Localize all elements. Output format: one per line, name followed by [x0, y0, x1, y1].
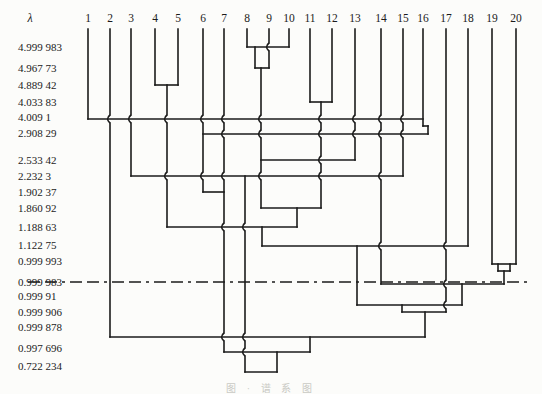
leaf-label-1: 1 [85, 12, 91, 24]
lambda-value-label-8: 1.902 37 [18, 186, 57, 198]
leaf-label-12: 12 [326, 12, 338, 24]
lambda-value-label-2: 4.889 42 [18, 79, 57, 91]
leaf-label-13: 13 [349, 12, 361, 24]
leaf-label-16: 16 [417, 12, 429, 24]
lambda-axis-symbol: λ [26, 11, 32, 25]
lambda-value-label-15: 0.999 906 [18, 306, 63, 318]
leaf-label-14: 14 [375, 12, 387, 24]
lambda-value-label-4: 4.009 1 [18, 111, 51, 123]
lambda-value-label-13: 0.999 983 [18, 276, 63, 288]
lambda-value-label-6: 2.533 42 [18, 154, 57, 166]
lambda-value-label-12: 0.999 993 [18, 255, 63, 267]
leaf-label-10: 10 [283, 12, 295, 24]
leaf-label-6: 6 [200, 12, 206, 24]
leaf-label-4: 4 [152, 12, 158, 24]
leaf-label-19: 19 [486, 12, 498, 24]
leaf-label-2: 2 [107, 12, 113, 24]
lambda-value-label-17: 0.997 696 [18, 342, 63, 354]
lambda-value-label-11: 1.122 75 [18, 239, 57, 251]
lambda-value-label-0: 4.999 983 [18, 41, 63, 53]
figure-caption: 图 · 谱 系 图 [0, 380, 542, 394]
leaf-label-20: 20 [510, 12, 522, 24]
lambda-value-label-1: 4.967 73 [18, 62, 57, 74]
leaf-label-8: 8 [244, 12, 250, 24]
leaf-label-18: 18 [462, 12, 474, 24]
leaf-label-11: 11 [304, 12, 315, 24]
leaf-label-5: 5 [175, 12, 181, 24]
lambda-value-label-9: 1.860 92 [18, 202, 57, 214]
lambda-value-label-3: 4.033 83 [18, 96, 57, 108]
leaf-label-15: 15 [397, 12, 409, 24]
leaf-label-17: 17 [440, 12, 452, 24]
lambda-value-label-14: 0.999 91 [18, 290, 57, 302]
leaf-label-9: 9 [266, 12, 272, 24]
dendrogram-figure: 1234567891011121314151617181920λ4.999 98… [0, 0, 542, 394]
lambda-value-label-16: 0.999 878 [18, 321, 63, 333]
leaf-label-7: 7 [221, 12, 227, 24]
leaf-label-3: 3 [128, 12, 134, 24]
lambda-value-label-18: 0.722 234 [18, 360, 63, 372]
lambda-value-label-10: 1.188 63 [18, 221, 57, 233]
lambda-value-label-7: 2.232 3 [18, 170, 52, 182]
lambda-value-label-5: 2.908 29 [18, 127, 57, 139]
